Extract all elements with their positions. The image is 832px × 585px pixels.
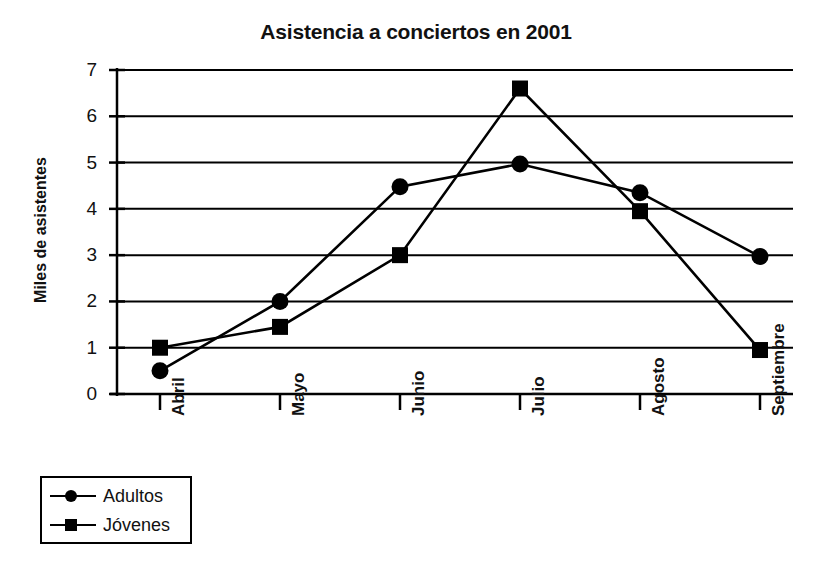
x-tick-label: Septiembre — [769, 323, 789, 416]
legend-marker-circle-icon — [50, 486, 96, 506]
legend-label-adultos: Adultos — [103, 486, 163, 507]
data-point-jóvenes-mayo[interactable] — [272, 319, 288, 335]
x-tick-label: Junio — [409, 371, 429, 416]
y-tick-label: 1 — [69, 338, 97, 357]
y-tick-label: 3 — [69, 245, 97, 264]
data-point-adultos-junio[interactable] — [392, 178, 409, 195]
y-tick-label: 6 — [69, 106, 97, 125]
data-point-jóvenes-septiembre[interactable] — [752, 342, 768, 358]
data-point-adultos-septiembre[interactable] — [752, 248, 769, 265]
legend-item-adultos[interactable]: Adultos — [50, 481, 163, 511]
legend: Adultos Jóvenes — [40, 476, 192, 544]
y-tick-label: 7 — [69, 60, 97, 79]
x-tick-label: Mayo — [289, 373, 309, 416]
legend-marker-square-icon — [50, 515, 96, 535]
y-tick-label: 5 — [69, 153, 97, 172]
series-lines — [160, 89, 760, 371]
x-tick-label: Abril — [169, 377, 189, 416]
legend-label-jovenes: Jóvenes — [103, 515, 170, 536]
x-axis-ticks — [160, 394, 760, 410]
y-tick-label: 4 — [69, 199, 97, 218]
data-point-adultos-mayo[interactable] — [272, 293, 289, 310]
series-line-jóvenes — [160, 89, 760, 351]
legend-item-jovenes[interactable]: Jóvenes — [50, 510, 170, 540]
y-tick-label: 0 — [69, 384, 97, 403]
data-point-jóvenes-agosto[interactable] — [632, 203, 648, 219]
chart-root: Asistencia a conciertos en 2001 Miles de… — [0, 0, 832, 585]
data-point-adultos-abril[interactable] — [152, 362, 169, 379]
y-gridlines — [117, 70, 793, 348]
data-point-jóvenes-junio[interactable] — [392, 247, 408, 263]
data-point-jóvenes-abril[interactable] — [152, 340, 168, 356]
data-point-jóvenes-julio[interactable] — [512, 81, 528, 97]
x-tick-label: Agosto — [649, 357, 669, 416]
data-point-adultos-julio[interactable] — [512, 155, 529, 172]
x-tick-label: Julio — [529, 376, 549, 416]
y-tick-label: 2 — [69, 291, 97, 310]
data-point-adultos-agosto[interactable] — [632, 184, 649, 201]
series-markers — [152, 81, 769, 380]
series-line-adultos — [160, 164, 760, 371]
